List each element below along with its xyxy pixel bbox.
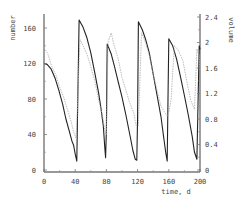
y2-tick-label: 0.4	[205, 141, 218, 149]
x-tick-label: 80	[102, 178, 110, 186]
number-series-line	[44, 20, 200, 161]
y-tick-label: 120	[23, 60, 36, 68]
x-tick-label: 120	[131, 178, 144, 186]
y-tick-label: 0	[32, 167, 36, 175]
y2-tick-label: 0	[205, 167, 209, 175]
y2-tick-label: 2.4	[205, 14, 218, 22]
y-tick-label: 160	[23, 25, 36, 33]
plot-area	[44, 20, 200, 161]
x-tick-label: 200	[194, 178, 207, 186]
axes	[44, 14, 200, 172]
y2-tick-label: 1.6	[205, 65, 218, 73]
x-tick-label: 160	[162, 178, 175, 186]
y-tick-label: 80	[28, 96, 36, 104]
right-y-axis-label: volume	[227, 17, 235, 42]
dual-axis-line-chart: 04080120160200 04080120160 00.40.81.21.6…	[0, 0, 236, 208]
left-y-axis-label: number	[9, 15, 17, 40]
x-tick-label: 0	[42, 178, 46, 186]
x-axis-label: time, d	[161, 188, 191, 196]
y2-tick-label: 2	[205, 39, 209, 47]
y2-tick-label: 1.2	[205, 90, 218, 98]
y2-tick-label: 0.8	[205, 116, 218, 124]
y-tick-label: 40	[28, 131, 36, 139]
x-tick-label: 40	[71, 178, 79, 186]
